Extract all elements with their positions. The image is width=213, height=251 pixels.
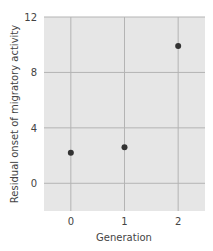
y-tick-label: 4 xyxy=(31,123,37,134)
x-axis-ticks: 012 xyxy=(68,216,182,227)
y-tick-label: 8 xyxy=(31,67,37,78)
y-axis-label: Residual onset of migratory activity xyxy=(9,25,20,203)
y-tick-label: 0 xyxy=(31,178,37,189)
data-point xyxy=(122,144,128,150)
y-tick-label: 12 xyxy=(24,12,37,23)
x-tick-label: 0 xyxy=(68,216,74,227)
data-point xyxy=(68,150,74,156)
y-axis-ticks: 04812 xyxy=(24,12,37,189)
x-axis-label: Generation xyxy=(96,232,152,243)
x-tick-label: 2 xyxy=(175,216,181,227)
scatter-chart: 04812 012 Generation Residual onset of m… xyxy=(0,0,213,251)
x-tick-label: 1 xyxy=(121,216,127,227)
data-point xyxy=(175,43,181,49)
